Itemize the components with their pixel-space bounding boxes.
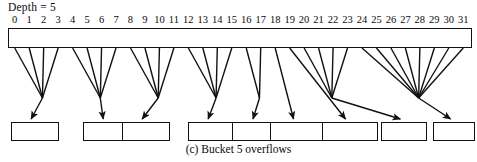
directory-link-29-to-bucket-7 — [419, 48, 435, 98]
directory-link-3-to-bucket-1 — [42, 48, 58, 98]
directory-link-14-to-bucket-9 — [216, 48, 217, 98]
directory-link-10-to-bucket-8 — [158, 48, 159, 98]
directory-link-2-to-bucket-1 — [42, 48, 43, 98]
directory-link-0-to-bucket-1 — [15, 48, 43, 98]
directory-link-8-to-bucket-8 — [130, 48, 158, 98]
directory-link-1-to-bucket-1 — [29, 48, 42, 98]
directory-link-17-to-bucket-4 — [259, 48, 260, 98]
directory-link-9-to-bucket-8 — [145, 48, 158, 98]
bucket-box-9[interactable] — [188, 122, 236, 141]
bucket-pointer-4 — [253, 98, 259, 119]
directory-link-5-to-bucket-2 — [87, 48, 100, 98]
directory-link-21-to-bucket-6 — [319, 48, 332, 98]
bucket-box-10[interactable] — [270, 122, 326, 141]
bucket-pointer-8 — [142, 98, 158, 119]
directory-link-26-to-bucket-7 — [391, 48, 419, 98]
directory-link-13-to-bucket-9 — [203, 48, 216, 98]
directory-link-7-to-bucket-2 — [100, 48, 116, 98]
directory-link-20-to-bucket-6 — [304, 48, 332, 98]
figure-canvas: Depth = 5 012345678910111213141516171819… — [0, 0, 477, 162]
bucket-box-8[interactable] — [122, 122, 170, 141]
directory-link-22-to-bucket-6 — [332, 48, 333, 98]
bucket-box-7[interactable] — [433, 122, 475, 141]
bucket-pointer-6 — [332, 98, 401, 119]
bucket-box-11[interactable] — [322, 122, 378, 141]
directory-link-12-to-bucket-9 — [188, 48, 216, 98]
directory-link-16-to-bucket-4 — [246, 48, 259, 98]
directory-link-28-to-bucket-7 — [419, 48, 420, 98]
bucket-box-6[interactable] — [381, 122, 427, 141]
bucket-pointer-1 — [31, 98, 42, 119]
bucket-pointer-7 — [419, 98, 451, 119]
bucket-pointer-10 — [275, 48, 293, 119]
bucket-pointer-2 — [100, 98, 103, 119]
directory-link-31-to-bucket-7 — [419, 48, 464, 98]
directory-link-15-to-bucket-9 — [216, 48, 232, 98]
bucket-box-1[interactable] — [11, 122, 59, 141]
directory-link-24-to-bucket-7 — [362, 48, 419, 98]
directory-link-11-to-bucket-8 — [158, 48, 174, 98]
directory-link-23-to-bucket-6 — [332, 48, 348, 98]
bucket-pointer-9 — [208, 98, 216, 119]
figure-caption: (c) Bucket 5 overflows — [0, 143, 477, 155]
directory-link-4-to-bucket-2 — [73, 48, 101, 98]
bucket-pointer-11 — [290, 48, 346, 119]
directory-link-30-to-bucket-7 — [419, 48, 449, 98]
directory-link-6-to-bucket-2 — [100, 48, 101, 98]
